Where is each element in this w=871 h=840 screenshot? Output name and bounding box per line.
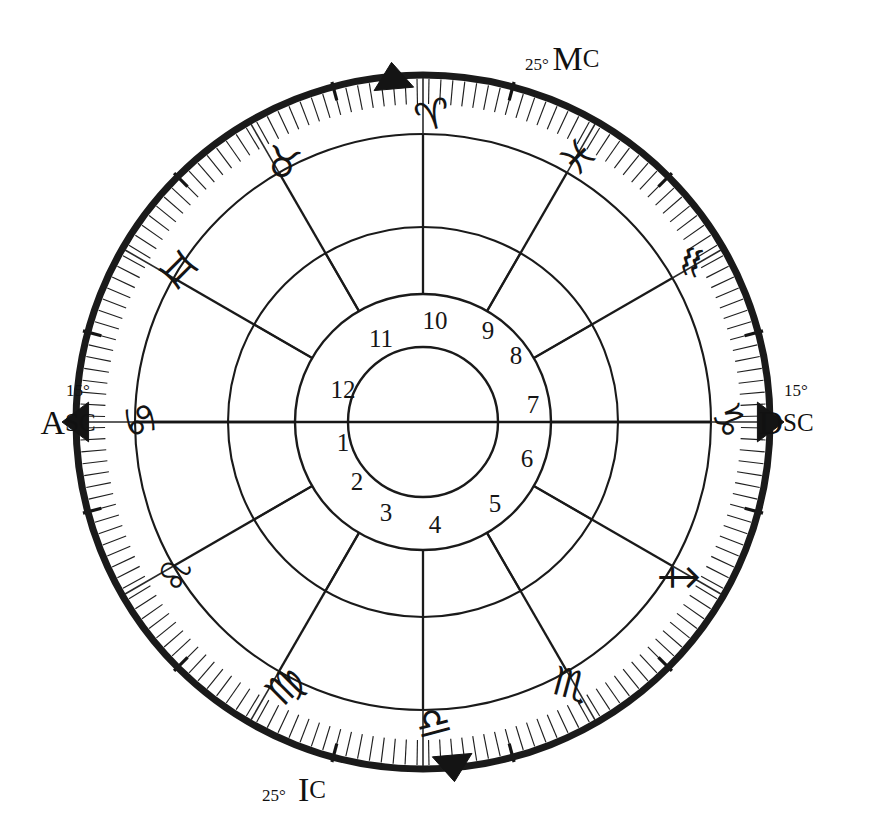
house-number-divider	[487, 533, 521, 591]
degree-tick-minor	[323, 726, 330, 750]
degree-tick-minor	[217, 676, 232, 696]
angle-label-descendant: DSC	[758, 404, 813, 441]
degree-tick-minor	[716, 288, 739, 298]
degree-tick-minor	[596, 689, 610, 710]
house-number-9: 9	[482, 317, 495, 344]
degree-tick-minor	[289, 106, 299, 129]
degree-tick-minor	[149, 216, 169, 231]
house-number-5: 5	[489, 490, 502, 517]
degree-tick-minor	[735, 357, 760, 362]
house-number-divider	[534, 486, 592, 520]
degree-tick-minor	[135, 235, 156, 249]
degree-tick-minor	[557, 111, 568, 134]
degree-tick-minor	[623, 669, 639, 688]
house-number-11: 11	[369, 325, 393, 352]
degree-tick-minor	[739, 461, 764, 464]
degree-tick-minor	[484, 85, 489, 110]
degree-tick-minor	[84, 368, 109, 372]
degree-tick-minor	[737, 472, 762, 476]
degree-tick-minor	[278, 111, 289, 134]
degree-tick-minor	[701, 576, 723, 588]
degree-tick-minor	[86, 357, 111, 362]
degree-tick-minor	[149, 613, 169, 628]
house-number-divider	[487, 253, 521, 311]
degree-tick-minor	[677, 613, 697, 628]
degree-tick-minor	[720, 536, 743, 545]
sign-glyph-leo: ♌	[148, 552, 202, 599]
degree-tick-minor	[236, 689, 250, 710]
astrology-chart-wheel: ♋♊♉♈♓♒♑♐♏♎♍♌ 123456789101112 15°ASC15°DS…	[0, 0, 871, 840]
degree-tick-minor	[81, 450, 106, 452]
degree-tick-minor	[587, 695, 600, 716]
degree-tick-minor	[495, 88, 501, 112]
degree-tick-minor	[346, 88, 352, 112]
degree-tick-minor	[300, 102, 309, 125]
house-number-12: 12	[331, 376, 356, 403]
degree-tick-minor	[614, 676, 629, 696]
house-number-divider	[326, 533, 360, 591]
degree-tick-minor	[323, 94, 330, 118]
degree-tick-minor	[226, 141, 240, 161]
degree-tick-minor	[393, 739, 395, 764]
degree-tick-minor	[123, 256, 145, 268]
degree-tick-minor	[690, 595, 711, 609]
degree-tick-minor	[739, 380, 764, 383]
degree-tick-minor	[656, 188, 674, 205]
house-number-3: 3	[380, 499, 393, 526]
degree-tick-minor	[156, 206, 175, 222]
degree-tick-minor	[103, 536, 126, 545]
degree-tick-minor	[117, 566, 139, 577]
degree-tick-minor	[89, 494, 113, 500]
degree-tick-minor	[733, 345, 757, 351]
angle-label-medium-coeli: MC	[553, 40, 600, 77]
house-number-6: 6	[521, 445, 534, 472]
angle-label-imum-coeli: IC	[298, 771, 326, 808]
degree-tick-minor	[369, 83, 373, 108]
degree-tick-minor	[257, 122, 269, 144]
degree-tick-minor	[724, 526, 748, 534]
degree-tick-minor	[537, 102, 546, 125]
degree-tick-minor	[246, 695, 259, 716]
degree-tick-minor	[706, 566, 728, 577]
house-number-8: 8	[510, 342, 523, 369]
angle-label-ascendant: ASC	[40, 404, 95, 441]
degree-tick-minor	[740, 392, 765, 394]
degree-tick-minor	[236, 134, 250, 155]
degree-tick-minor	[711, 556, 734, 567]
degree-tick-minor	[129, 586, 150, 599]
degree-tick-minor	[727, 515, 751, 522]
degree-tick-minor	[735, 483, 760, 488]
degree-tick-minor	[527, 98, 535, 122]
degree-tick-minor	[107, 288, 130, 298]
degree-tick-minor	[727, 322, 751, 329]
degree-tick-minor	[495, 732, 501, 756]
degree-tick-minor	[557, 710, 568, 733]
degree-tick-minor	[142, 225, 162, 239]
degree-tick-minor	[547, 715, 557, 738]
degree-tick-minor	[142, 604, 162, 618]
degree-tick-minor	[95, 515, 119, 522]
degree-tick-minor	[164, 197, 183, 213]
degree-tick-minor	[198, 662, 214, 681]
degree-tick-minor	[516, 94, 523, 118]
degree-tick-minor	[99, 526, 123, 534]
degree-tick-minor	[117, 266, 139, 277]
degree-tick-minor	[473, 83, 477, 108]
degree-tick-minor	[83, 461, 108, 464]
house-number-divider	[534, 325, 592, 359]
degree-tick-minor	[189, 655, 206, 673]
degree-tick-minor	[300, 719, 309, 742]
degree-tick-minor	[112, 277, 135, 288]
degree-tick-minor	[358, 734, 363, 759]
degree-tick-minor	[473, 736, 477, 761]
degree-tick-minor	[677, 216, 697, 231]
degree-tick-minor	[369, 736, 373, 761]
degree-tick-minor	[484, 734, 489, 759]
degree-tick-minor	[733, 494, 757, 500]
degree-tick-minor	[172, 639, 190, 656]
degree-tick-minor	[547, 106, 557, 129]
degree-tick-minor	[189, 171, 206, 189]
degree-tick-minor	[451, 80, 453, 105]
house-number-4: 4	[429, 511, 442, 538]
degree-tick-minor	[623, 155, 639, 174]
